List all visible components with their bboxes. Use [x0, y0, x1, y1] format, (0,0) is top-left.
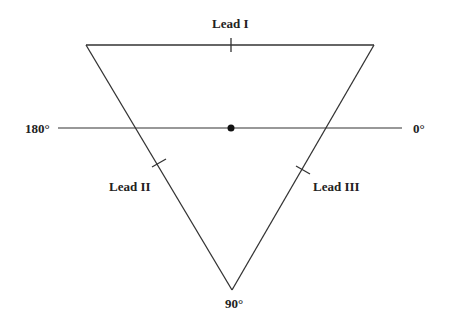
angle-180-label: 180°	[25, 122, 50, 135]
angle-90-label: 90°	[225, 297, 243, 310]
angle-0-label: 0°	[413, 122, 425, 135]
lead-ii-label: Lead II	[109, 180, 151, 193]
einthoven-triangle-diagram	[0, 0, 449, 331]
center-dot	[228, 125, 235, 132]
lead-iii-label: Lead III	[313, 180, 360, 193]
lead-i-label: Lead I	[212, 17, 248, 30]
lead-iii-side	[232, 45, 374, 290]
lead-ii-side	[86, 45, 232, 290]
